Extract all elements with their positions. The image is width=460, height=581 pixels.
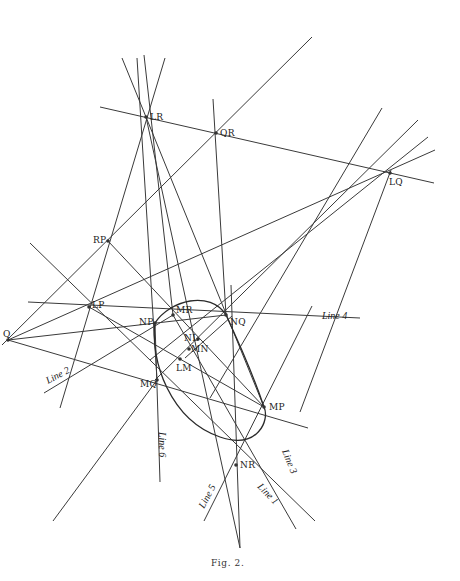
point-marker	[144, 115, 148, 119]
point-label: Q	[3, 329, 11, 339]
point-marker	[262, 405, 266, 409]
geometry-figure: LRQRLQRPLPMRNPNQQNLMNLMMQMPNR Line 4Line…	[0, 0, 460, 581]
line-label-6: Line 6	[157, 431, 168, 457]
point-mn: MN	[187, 344, 209, 354]
line-LR-ray-d	[60, 58, 165, 408]
point-marker	[87, 305, 91, 309]
point-qr: QR	[214, 128, 235, 138]
point-label: NP	[139, 317, 154, 327]
point-marker	[106, 239, 110, 243]
point-label: MQ	[140, 379, 157, 389]
point-nl: NL	[184, 333, 200, 343]
point-label: NQ	[230, 317, 246, 327]
point-label: MN	[191, 344, 209, 354]
line-LQ-down	[300, 170, 391, 412]
line-label-3: Line 3	[280, 447, 300, 475]
point-label: NR	[240, 460, 255, 470]
point-marker	[234, 463, 238, 467]
line-LP-MP	[30, 243, 315, 521]
point-marker	[388, 171, 392, 175]
point-label: MR	[176, 305, 193, 315]
line-label-5: Line 5	[196, 482, 218, 510]
line-label-4: Line 4	[321, 310, 347, 321]
point-q: Q	[3, 329, 11, 342]
point-marker	[214, 131, 218, 135]
point-lq: LQ	[388, 171, 403, 187]
point-label: LQ	[389, 177, 403, 187]
line-LR-ray-a	[122, 58, 264, 407]
point-marker	[171, 313, 175, 317]
point-lm: LM	[176, 357, 192, 373]
point-marker	[224, 313, 228, 317]
construction-lines	[2, 37, 435, 548]
line-LR-ray-c	[144, 55, 173, 315]
point-marker	[178, 357, 182, 361]
point-rp: RP	[93, 235, 110, 245]
point-label: RP	[93, 235, 106, 245]
point-label: LP	[92, 300, 105, 310]
point-label: NL	[184, 333, 198, 343]
point-marker	[153, 321, 157, 325]
point-mq: MQ	[140, 378, 159, 389]
point-label: QR	[220, 128, 235, 138]
labeled-points: LRQRLQRPLPMRNPNQQNLMNLMMQMPNR	[3, 112, 403, 470]
point-label: LR	[150, 112, 163, 122]
point-label: MP	[269, 402, 285, 412]
figure-caption: Fig. 2.	[211, 558, 244, 568]
point-label: LM	[176, 363, 192, 373]
line-MQ-down	[53, 380, 157, 521]
